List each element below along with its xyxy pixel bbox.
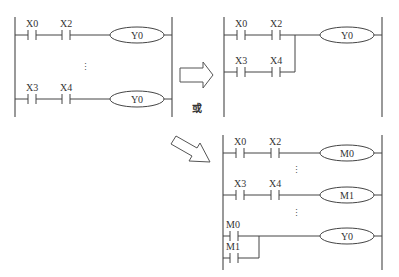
label-x0: X0 [235, 18, 247, 29]
ellipsis: ⋮ [292, 208, 301, 218]
label-y0: Y0 [341, 30, 353, 41]
label-m1: M1 [226, 241, 240, 252]
or-label: 或 [192, 102, 202, 114]
label-x0: X0 [234, 136, 246, 147]
label-x3: X3 [235, 55, 247, 66]
rung-x3-x4-y0: X3 X4 Y0 [15, 82, 172, 107]
right-arrow-icon [180, 62, 213, 88]
ladder-diagram: X0 X2 Y0 ⋮ X3 X4 Y0 或 [0, 0, 399, 277]
ellipsis: ⋮ [81, 62, 90, 72]
label-y0: Y0 [131, 94, 143, 105]
label-x2: X2 [60, 18, 72, 29]
label-x2: X2 [270, 18, 282, 29]
label-x4: X4 [270, 55, 282, 66]
rung-x0-x2-y0: X0 X2 Y0 [15, 18, 172, 43]
label-x4: X4 [269, 178, 281, 189]
diagonal-arrow-icon [171, 136, 210, 162]
label-y0: Y0 [341, 231, 353, 242]
label-x3: X3 [26, 82, 38, 93]
bottom-right-ladder: X0 X2 M0 ⋮ X3 X4 M1 ⋮ M0 Y0 M1 [223, 135, 382, 270]
ellipsis: ⋮ [292, 165, 301, 175]
label-m0-coil: M0 [340, 148, 354, 159]
label-y0: Y0 [131, 30, 143, 41]
top-right-ladder: X0 X2 Y0 X3 X4 [224, 17, 382, 117]
label-x3: X3 [234, 178, 246, 189]
label-m0: M0 [226, 219, 240, 230]
label-x4: X4 [60, 82, 72, 93]
label-m1-coil: M1 [340, 190, 354, 201]
label-x2: X2 [269, 136, 281, 147]
label-x0: X0 [26, 18, 38, 29]
left-ladder: X0 X2 Y0 ⋮ X3 X4 Y0 [15, 17, 172, 117]
